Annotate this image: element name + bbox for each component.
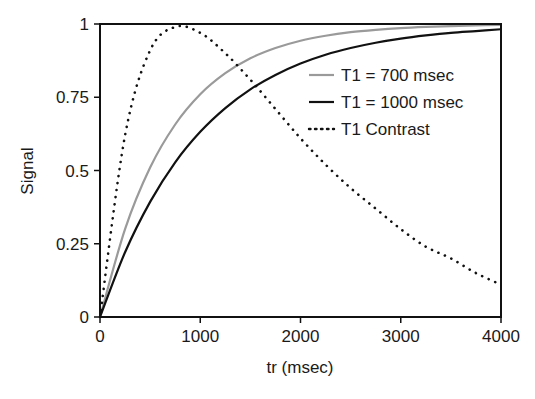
y-tick-label: 0.75 — [56, 88, 89, 107]
y-tick-label: 0.25 — [56, 235, 89, 254]
x-tick-label: 2000 — [282, 327, 320, 346]
x-tick-label: 1000 — [181, 327, 219, 346]
y-tick-label: 0 — [80, 308, 89, 327]
y-tick-label: 1 — [80, 15, 89, 34]
legend: T1 = 700 msec T1 = 1000 msec T1 Contrast — [309, 66, 464, 139]
y-axis-label: Signal — [18, 147, 37, 194]
x-axis-label: tr (msec) — [266, 358, 333, 377]
legend-label-t1-1000: T1 = 1000 msec — [341, 93, 464, 112]
legend-label-t1-700: T1 = 700 msec — [341, 66, 454, 85]
x-tick-label: 3000 — [382, 327, 420, 346]
x-tick-label: 0 — [95, 327, 104, 346]
x-tick-label: 4000 — [482, 327, 520, 346]
y-tick-label: 0.5 — [65, 162, 89, 181]
y-axis-ticks: 00.250.50.751 — [56, 15, 100, 327]
x-axis-ticks: 01000200030004000 — [95, 317, 520, 346]
legend-label-t1-contrast: T1 Contrast — [341, 120, 430, 139]
signal-vs-tr-chart: 01000200030004000 00.250.50.751 tr (msec… — [0, 0, 535, 399]
